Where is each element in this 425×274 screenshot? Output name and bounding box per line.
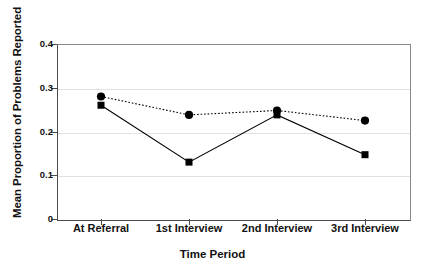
gridline [58,133,410,134]
y-tick-label: 0.4 [13,38,53,49]
y-tick-label: 0.1 [13,169,53,180]
y-tick-label: 0.2 [13,126,53,137]
chart-container: Mean Proportion of Problems Reported Tim… [0,0,425,274]
gridline [58,89,410,90]
plot-area [57,44,411,221]
gridline [58,176,410,177]
x-tick-label: 3rd Interview [305,222,425,234]
y-tick-label: 0.3 [13,82,53,93]
x-axis-title: Time Period [0,248,425,260]
